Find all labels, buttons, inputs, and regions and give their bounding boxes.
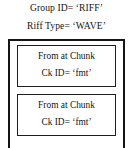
chunk-ck-id: Ck ID= ‘fmt’ xyxy=(18,68,121,79)
group-id-label: Group ID= ‘RIFF’ xyxy=(0,2,133,13)
riff-container-box: From at Chunk Ck ID= ‘fmt’ From at Chunk… xyxy=(8,39,125,148)
chunk-title: From at Chunk xyxy=(18,51,115,62)
chunk-ck-id: Ck ID= ‘fmt’ xyxy=(18,117,121,128)
chunk-box: From at Chunk Ck ID= ‘fmt’ xyxy=(17,45,116,87)
chunk-box: From at Chunk Ck ID= ‘fmt’ xyxy=(17,94,116,136)
riff-type-label: Riff Type= ‘WAVE’ xyxy=(0,20,133,31)
chunk-title: From at Chunk xyxy=(18,100,115,111)
riff-structure-diagram: Group ID= ‘RIFF’ Riff Type= ‘WAVE’ From … xyxy=(0,0,133,148)
